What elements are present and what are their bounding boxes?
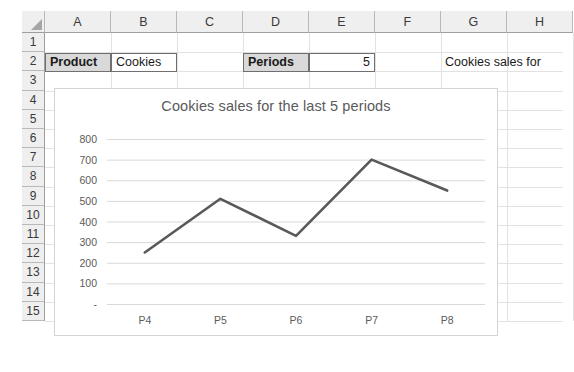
y-axis-tick-label: 700 — [55, 154, 97, 166]
line-chart-object[interactable]: Cookies sales for the last 5 periods -10… — [54, 88, 498, 336]
cell-b2[interactable]: Cookies — [111, 53, 177, 72]
cell-a2[interactable]: Product — [45, 53, 111, 72]
chart-plot-area: -100200300400500600700800P4P5P6P7P8 — [55, 89, 498, 336]
x-axis-tick-label: P4 — [138, 314, 151, 326]
y-axis-tick-label: 300 — [55, 236, 97, 248]
cell-g2[interactable]: Cookies sales for — [441, 53, 507, 72]
x-axis-tick-label: P7 — [365, 314, 378, 326]
y-axis-tick-label: 200 — [55, 257, 97, 269]
x-axis-tick-label: P6 — [290, 314, 303, 326]
y-axis-tick-label: 800 — [55, 133, 97, 145]
y-axis-tick-label: 600 — [55, 174, 97, 186]
chart-svg — [55, 89, 498, 336]
y-axis-tick-label: - — [55, 298, 97, 310]
cell-d2[interactable]: Periods — [243, 53, 309, 72]
y-axis-tick-label: 500 — [55, 195, 97, 207]
chart-series-line[interactable] — [145, 160, 447, 253]
x-axis-tick-label: P8 — [441, 314, 454, 326]
y-axis-tick-label: 100 — [55, 277, 97, 289]
y-axis-tick-label: 400 — [55, 216, 97, 228]
cell-e2[interactable]: 5 — [309, 53, 375, 72]
x-axis-tick-label: P5 — [214, 314, 227, 326]
